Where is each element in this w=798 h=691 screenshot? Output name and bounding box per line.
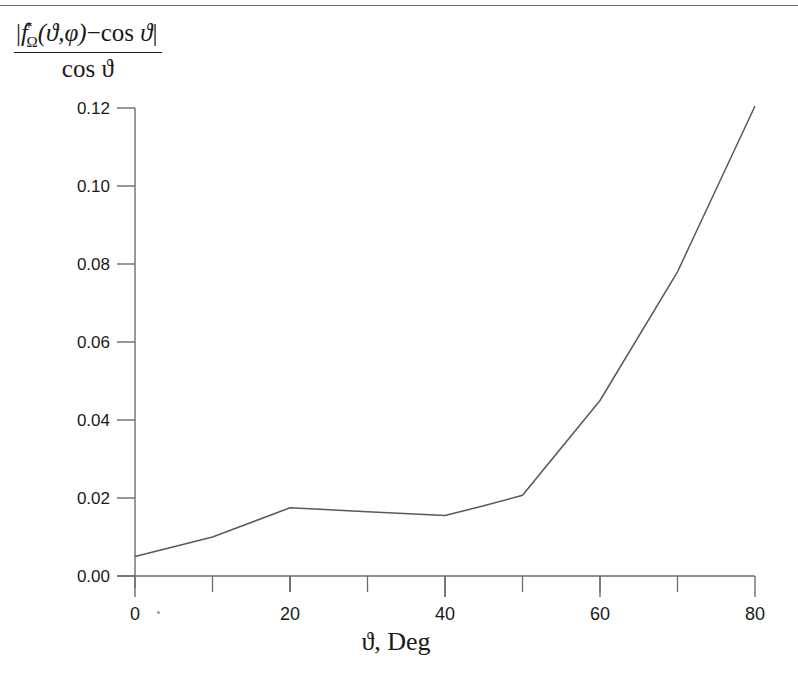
x-tick-label-80: 80	[745, 604, 765, 624]
y-axis-group: 0.12 0.10 0.08 0.06 0.04 0.02 0.00	[77, 99, 135, 588]
y-tick-label-0.06: 0.06	[77, 333, 110, 352]
x-tick-label-40: 40	[435, 604, 455, 624]
y-tick-label-0.08: 0.08	[77, 255, 110, 274]
x-axis-group: 0 20 40 60 80	[117, 576, 765, 624]
y-tick-label-0.04: 0.04	[77, 411, 110, 430]
y-tick-label-0.00: 0.00	[77, 567, 110, 586]
x-tick-label-60: 60	[590, 604, 610, 624]
figure-page: |f*Ω(ϑ,φ)−cos ϑ| cos ϑ 0.12 0.10 0.08 0.…	[0, 0, 798, 691]
data-series-line	[135, 106, 755, 556]
x-tick-label-0: 0	[130, 604, 140, 624]
scan-artifact-dot	[157, 611, 160, 614]
x-tick-label-20: 20	[280, 604, 300, 624]
y-tick-label-0.02: 0.02	[77, 489, 110, 508]
y-tick-label-0.10: 0.10	[77, 177, 110, 196]
plot-area: 0.12 0.10 0.08 0.06 0.04 0.02 0.00 0 2	[0, 0, 798, 691]
x-axis-label: ϑ, Deg	[361, 627, 430, 657]
y-tick-label-0.12: 0.12	[77, 99, 110, 118]
